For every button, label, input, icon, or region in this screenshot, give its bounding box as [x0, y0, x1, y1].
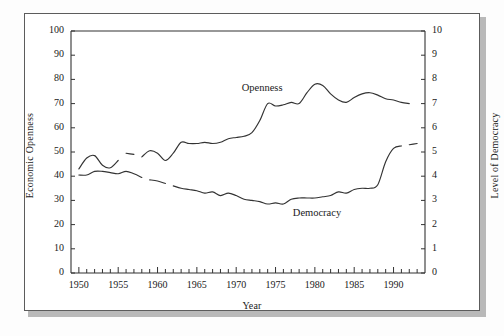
y-axis-left-tick-label: 20: [38, 218, 64, 229]
chart-figure: Economic Openness Level of Democracy Yea…: [0, 0, 504, 336]
y-axis-right-tick-label: 7: [432, 97, 458, 108]
y-axis-right-tick-label: 0: [432, 266, 458, 277]
y-axis-left-tick-label: 80: [38, 72, 64, 83]
y-axis-left-tick-label: 0: [38, 266, 64, 277]
series-line-democracy: [79, 171, 142, 177]
series-line-openness: [142, 84, 409, 161]
series-line-democracy: [150, 180, 166, 184]
x-axis-tick-label: 1960: [138, 279, 178, 290]
y-axis-right-tick-label: 3: [432, 193, 458, 204]
y-axis-right-tick-label: 5: [432, 145, 458, 156]
series-line-democracy: [173, 146, 401, 204]
x-axis-tick-label: 1970: [216, 279, 256, 290]
series-line-democracy: [409, 144, 417, 145]
x-axis-tick-label: 1955: [98, 279, 138, 290]
series-annotation-openness: Openness: [242, 82, 283, 93]
y-axis-right-tick-label: 10: [432, 24, 458, 35]
series-annotation-democracy: Democracy: [293, 207, 341, 218]
x-axis-tick-label: 1975: [256, 279, 296, 290]
y-axis-left-tick-label: 10: [38, 242, 64, 253]
y-axis-left-tick-label: 30: [38, 193, 64, 204]
x-axis-title: Year: [202, 300, 302, 311]
series-line-openness: [126, 153, 134, 154]
y-axis-left-tick-label: 70: [38, 97, 64, 108]
y-axis-left-tick-label: 60: [38, 121, 64, 132]
series-line-openness: [79, 155, 118, 169]
y-axis-left-tick-label: 50: [38, 145, 64, 156]
x-axis-tick-label: 1950: [59, 279, 99, 290]
y-axis-left-tick-label: 40: [38, 169, 64, 180]
y-axis-right-tick-label: 8: [432, 72, 458, 83]
y-axis-right-tick-label: 6: [432, 121, 458, 132]
x-axis-tick-label: 1980: [295, 279, 335, 290]
y-axis-left-tick-label: 90: [38, 48, 64, 59]
x-axis-tick-label: 1990: [374, 279, 414, 290]
plot-area: Economic Openness Level of Democracy Yea…: [0, 0, 504, 336]
y-axis-right-tick-label: 1: [432, 242, 458, 253]
y-axis-right-tick-label: 4: [432, 169, 458, 180]
x-axis-tick-label: 1985: [334, 279, 374, 290]
x-axis-tick-label: 1965: [177, 279, 217, 290]
y-axis-right-title: Level of Democracy: [489, 96, 500, 216]
y-axis-left-title: Economic Openness: [24, 96, 35, 216]
y-axis-right-tick-label: 9: [432, 48, 458, 59]
y-axis-right-tick-label: 2: [432, 218, 458, 229]
y-axis-left-tick-label: 100: [38, 24, 64, 35]
